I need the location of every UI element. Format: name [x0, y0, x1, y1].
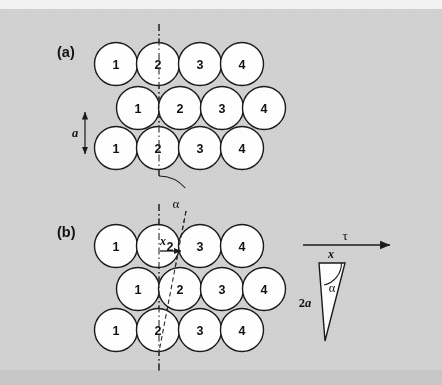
atom-label: 1: [113, 142, 120, 156]
figure-container: (a) 1 2 3 4 1 2 3: [0, 0, 442, 385]
atom-label: 4: [261, 102, 268, 116]
top-white-strip: [0, 0, 442, 9]
atom-label: 3: [219, 102, 226, 116]
atom-label: 2: [177, 283, 184, 297]
triangle-label-x: x: [327, 247, 334, 261]
atom-label: 1: [113, 58, 120, 72]
atom-label: 4: [239, 58, 246, 72]
atom-label: 2: [167, 240, 174, 254]
atom-label: 2: [155, 142, 162, 156]
alpha-angle-label: α: [173, 196, 180, 211]
shear-stress-label-tau: τ: [342, 228, 347, 243]
atom-label: 1: [113, 324, 120, 338]
atom-label: 1: [135, 102, 142, 116]
panel-a-label: (a): [57, 44, 75, 60]
atom-label: 4: [239, 142, 246, 156]
atom-label: 4: [261, 283, 268, 297]
panel-b-label: (b): [57, 224, 76, 240]
bottom-gray-strip: [0, 370, 442, 385]
spacing-label-a: a: [72, 126, 78, 140]
atom-label: 3: [197, 142, 204, 156]
triangle-label-alpha: α: [329, 281, 336, 295]
displacement-label-x: x: [159, 234, 166, 248]
atom-label: 1: [113, 240, 120, 254]
atom-label: 2: [155, 324, 162, 338]
atom-label: 3: [197, 324, 204, 338]
atom-label: 4: [239, 324, 246, 338]
atom-label: 3: [197, 58, 204, 72]
atom-label: 4: [239, 240, 246, 254]
atom-label: 2: [177, 102, 184, 116]
atom-label: 3: [219, 283, 226, 297]
atom-label: 2: [155, 58, 162, 72]
atom-label: 3: [197, 240, 204, 254]
triangle-label-2a: 2a: [299, 296, 312, 310]
atom-label: 1: [135, 283, 142, 297]
atomic-plane-shear-diagram: (a) 1 2 3 4 1 2 3: [0, 0, 442, 385]
